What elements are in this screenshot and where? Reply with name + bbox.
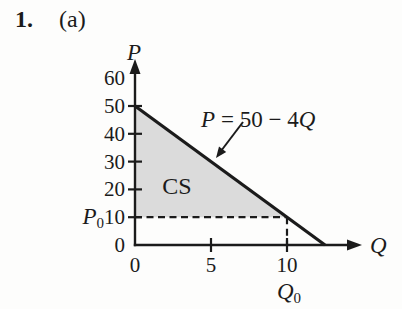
cs-label: CS: [162, 173, 191, 199]
y-tick-label-10: 10: [104, 205, 125, 229]
y-tick-label-0: 0: [115, 233, 126, 257]
q0-base: Q: [277, 279, 294, 304]
x-tick-label-0: 0: [130, 253, 141, 277]
y-tick-label-40: 40: [104, 122, 125, 146]
y-tick-label-60: 60: [104, 66, 125, 90]
equation-var-p: P: [200, 107, 215, 132]
p0-base: P: [81, 204, 96, 229]
x-axis-arrowhead-icon: [347, 240, 362, 251]
x-tick-label-5: 5: [206, 253, 217, 277]
y-tick-label-50: 50: [104, 94, 125, 118]
textbook-figure-page: 1. (a) 01020304050600510PQP= 50 − 4QCSP0…: [0, 0, 402, 309]
p0-label: P0: [81, 204, 104, 231]
chart-render-layer: 01020304050600510PQP= 50 − 4QCSP0Q0: [81, 40, 387, 306]
demand-equation-label: P= 50 − 4Q: [200, 107, 316, 132]
equation-middle: = 50 − 4: [221, 107, 299, 132]
y-axis-label: P: [126, 40, 141, 65]
q0-subscript: 0: [294, 290, 302, 306]
equation-pointer-arrowhead-icon: [216, 147, 226, 159]
supply-demand-figure: 01020304050600510PQP= 50 − 4QCSP0Q0: [0, 0, 402, 309]
equation-var-q: Q: [299, 107, 316, 132]
x-axis-label: Q: [370, 233, 387, 258]
p0-subscript: 0: [97, 215, 105, 231]
x-tick-label-10: 10: [277, 253, 298, 277]
y-tick-label-30: 30: [104, 150, 125, 174]
q0-label: Q0: [277, 279, 301, 306]
y-tick-label-20: 20: [104, 177, 125, 201]
